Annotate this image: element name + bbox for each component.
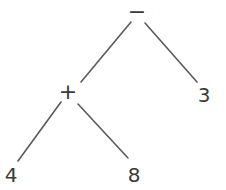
node-plus: +: [55, 79, 81, 105]
edge-group: [18, 22, 197, 161]
expression-tree-canvas: −+348: [0, 0, 226, 190]
edge-plus-to-4: [18, 102, 61, 161]
edge-plus-to-8: [78, 104, 128, 158]
node-3: 3: [191, 82, 217, 108]
edge-minus-to-3: [145, 23, 197, 82]
edge-minus-to-plus: [81, 22, 131, 82]
node-4: 4: [0, 162, 24, 188]
node-8: 8: [121, 162, 147, 188]
node-minus: −: [124, 0, 150, 25]
